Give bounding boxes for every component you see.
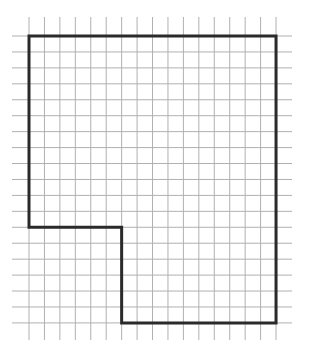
grid-diagram <box>0 0 309 360</box>
grid-lines <box>12 17 292 340</box>
